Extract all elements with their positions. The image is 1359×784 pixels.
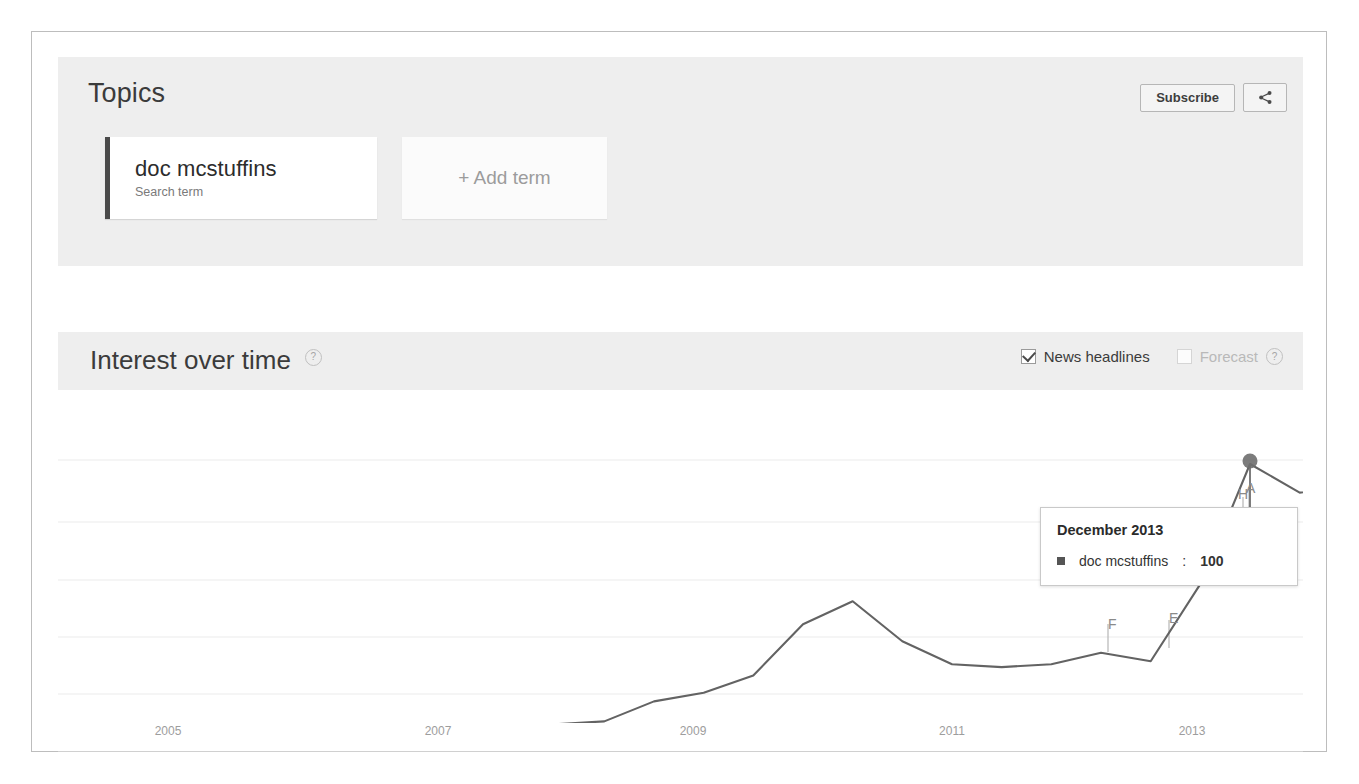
- term-card-accent-bar: [105, 137, 110, 219]
- interest-over-time-title: Interest over time?: [90, 345, 322, 376]
- tooltip-series-swatch: [1057, 557, 1065, 565]
- x-tick-2013: 2013: [1179, 724, 1206, 738]
- topics-title: Topics: [88, 78, 165, 109]
- share-button[interactable]: [1243, 83, 1287, 112]
- term-card-title: doc mcstuffins: [135, 157, 377, 180]
- topics-actions: Subscribe: [1140, 83, 1287, 112]
- tooltip-series-value: 100: [1200, 553, 1223, 569]
- chart-options: News headlines Forecast ?: [1021, 348, 1283, 365]
- x-tick-2005: 2005: [155, 724, 182, 738]
- chart-tooltip: December 2013 doc mcstuffins: 100: [1040, 507, 1298, 586]
- x-axis-tick-labels: 20052007200920112013: [58, 724, 1303, 754]
- help-icon-forecast[interactable]: ?: [1266, 348, 1283, 365]
- forecast-checkbox[interactable]: [1177, 349, 1192, 364]
- term-card-list: doc mcstuffins Search term + Add term: [105, 137, 607, 219]
- tooltip-series-row: doc mcstuffins: 100: [1057, 553, 1281, 569]
- forecast-label: Forecast: [1200, 348, 1258, 365]
- interest-over-time-title-text: Interest over time: [90, 345, 291, 375]
- interest-over-time-header: Interest over time? News headlines Forec…: [58, 332, 1303, 390]
- tooltip-date: December 2013: [1057, 522, 1281, 538]
- subscribe-button[interactable]: Subscribe: [1140, 84, 1235, 112]
- news-headlines-checkbox[interactable]: [1021, 349, 1036, 364]
- x-tick-2007: 2007: [425, 724, 452, 738]
- news-marker-label-e[interactable]: E: [1169, 610, 1178, 626]
- chart-bottom-rule: [58, 751, 1303, 752]
- x-tick-2011: 2011: [939, 724, 965, 738]
- series-line-doc-mcstuffins: [58, 464, 1303, 723]
- term-card-doc-mcstuffins[interactable]: doc mcstuffins Search term: [105, 137, 377, 219]
- tooltip-separator: :: [1182, 553, 1186, 569]
- news-headlines-label: News headlines: [1044, 348, 1150, 365]
- topics-panel: Topics Subscribe doc mcstuffins: [58, 57, 1303, 266]
- x-tick-2009: 2009: [680, 724, 707, 738]
- news-marker-label-h[interactable]: H: [1238, 486, 1248, 502]
- forecast-option[interactable]: Forecast ?: [1177, 348, 1283, 365]
- term-card-subtitle: Search term: [135, 185, 377, 199]
- tooltip-series-name: doc mcstuffins: [1079, 553, 1168, 569]
- add-term-button[interactable]: + Add term: [402, 137, 607, 219]
- news-headlines-option[interactable]: News headlines: [1021, 348, 1150, 365]
- trends-page-frame: Topics Subscribe doc mcstuffins: [31, 31, 1327, 752]
- news-marker-label-f[interactable]: F: [1108, 616, 1117, 632]
- share-icon: [1258, 90, 1273, 105]
- help-icon-interest-over-time[interactable]: ?: [305, 349, 322, 366]
